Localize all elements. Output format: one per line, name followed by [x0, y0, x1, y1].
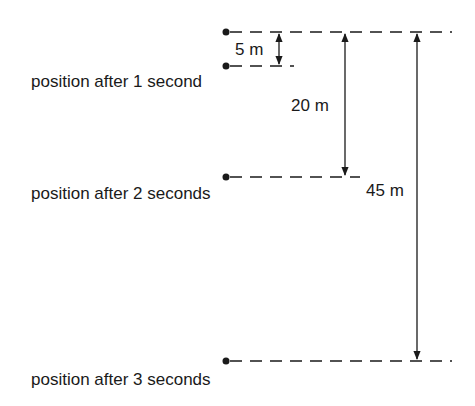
position-1-label: position after 1 second [31, 73, 202, 90]
diagram-canvas [0, 0, 475, 406]
one-second-dot [223, 63, 230, 70]
two-seconds-dot [223, 174, 230, 181]
distance-5m-label: 5 m [235, 41, 263, 58]
position-2-label: position after 2 seconds [31, 185, 211, 202]
position-3-label: position after 3 seconds [31, 371, 211, 388]
distance-20m-label: 20 m [291, 97, 329, 114]
start-dot [223, 29, 230, 36]
three-seconds-dot [223, 358, 230, 365]
distance-45m-label: 45 m [366, 182, 404, 199]
